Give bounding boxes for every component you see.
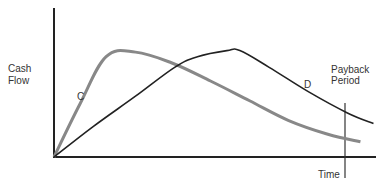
x-axis-label: Time bbox=[318, 169, 340, 180]
series-label-d: D bbox=[304, 79, 311, 90]
series-label-c: C bbox=[77, 91, 84, 102]
y-axis-label-line-2: Flow bbox=[8, 75, 30, 86]
cash-flow-chart: Cash Flow Time Payback Period C D bbox=[0, 0, 385, 186]
series-line-d bbox=[54, 49, 373, 157]
series-line-c bbox=[54, 50, 360, 157]
payback-annotation-line-2: Period bbox=[331, 75, 360, 86]
y-axis-label-line-1: Cash bbox=[8, 63, 31, 74]
payback-annotation-line-1: Payback bbox=[331, 64, 370, 75]
